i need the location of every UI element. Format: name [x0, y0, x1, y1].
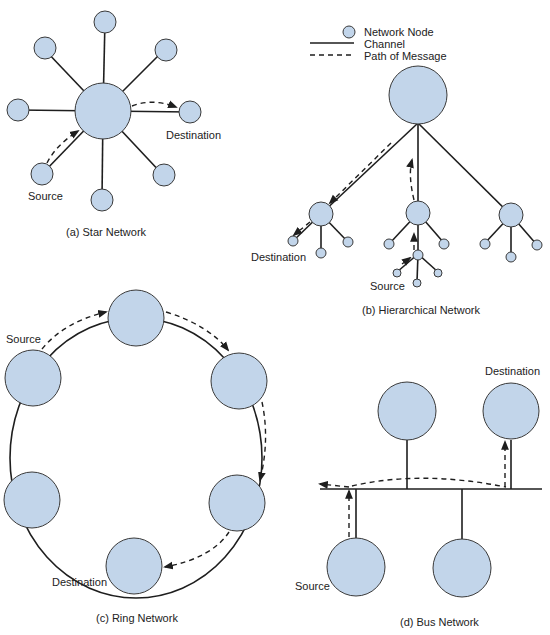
hier-level2-node: [309, 202, 333, 226]
hier-leaf-node: [506, 252, 516, 262]
star-node: [94, 11, 116, 33]
ring-caption: (c) Ring Network: [96, 612, 178, 624]
ring-node: [108, 290, 164, 346]
ring-source-node: [5, 350, 61, 406]
star-node: [91, 189, 113, 211]
bus-source-node: [327, 538, 385, 596]
ring-node: [4, 472, 60, 528]
bus-destination-node: [483, 383, 539, 439]
hier-leaf-node: [434, 269, 442, 277]
star-node: [155, 39, 177, 61]
ring-message-path: [42, 312, 106, 349]
hier-root-node: [389, 66, 447, 124]
star-network: Source Destination (a) Star Network: [7, 11, 221, 238]
hier-caption: (b) Hierarchical Network: [362, 304, 480, 316]
bus-node: [433, 539, 491, 597]
star-node: [153, 164, 175, 186]
hier-level2-node: [406, 201, 430, 225]
legend-node-icon: [343, 26, 355, 38]
ring-network: Source Destination (c) Ring Network: [4, 290, 267, 624]
star-destination-label: Destination: [166, 129, 221, 141]
hier-leaf-node: [532, 240, 542, 250]
bus-node: [378, 382, 436, 440]
ring-source-label: Source: [6, 333, 41, 345]
ring-destination-label: Destination: [52, 576, 107, 588]
legend-channel-label: Channel: [364, 38, 405, 50]
hier-leaf-node: [393, 269, 401, 277]
star-hub-node: [75, 83, 131, 139]
hier-destination-label: Destination: [251, 251, 306, 263]
ring-message-path: [165, 532, 229, 567]
network-topologies-diagram: Source Destination (a) Star Network Netw…: [0, 0, 550, 635]
bus-message-path: [320, 484, 349, 487]
legend: Network Node Channel Path of Message: [310, 26, 447, 62]
star-message-path: [132, 102, 176, 107]
hier-leaf-node: [316, 248, 326, 258]
ring-node: [211, 353, 267, 409]
bus-source-label: Source: [295, 580, 330, 592]
hier-leaf-node: [384, 239, 394, 249]
star-node: [7, 99, 29, 121]
ring-destination-node: [106, 538, 162, 594]
bus-destination-label: Destination: [485, 365, 540, 377]
star-node: [34, 37, 56, 59]
hier-message-path: [330, 143, 391, 203]
hier-level2-node: [499, 203, 523, 227]
star-message-path: [47, 131, 78, 163]
hier-source-label: Source: [370, 280, 405, 292]
star-source-node: [31, 163, 53, 185]
ring-node: [209, 475, 265, 531]
hier-leaf-node: [439, 239, 449, 249]
legend-node-label: Network Node: [364, 26, 434, 38]
hier-message-path: [410, 160, 414, 200]
legend-path-label: Path of Message: [364, 50, 447, 62]
hier-leaf-node: [413, 279, 421, 287]
hierarchical-network: Destination Source (b) Hierarchical Netw…: [251, 66, 542, 316]
hier-leaf-node: [343, 237, 353, 247]
bus-caption: (d) Bus Network: [400, 616, 479, 628]
star-caption: (a) Star Network: [66, 226, 147, 238]
hier-destination-node: [288, 236, 298, 246]
bus-message-path: [352, 478, 506, 487]
ring-message-path: [166, 312, 228, 350]
bus-network: Destination Source (d) Bus Network: [295, 365, 542, 628]
hier-source-node: [413, 250, 423, 260]
hier-leaf-node: [480, 239, 490, 249]
star-source-label: Source: [28, 190, 63, 202]
star-destination-node: [179, 101, 201, 123]
